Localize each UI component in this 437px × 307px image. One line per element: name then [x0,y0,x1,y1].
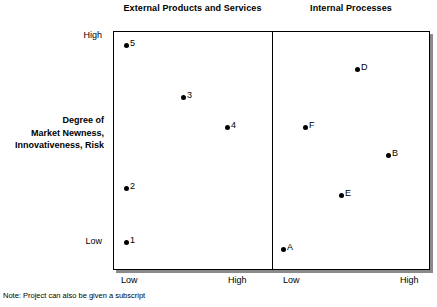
data-point-label: 1 [130,235,135,245]
data-point-marker [225,125,230,130]
data-point-label: D [361,62,368,72]
data-point-label: A [287,242,293,252]
y-axis-title-line-3: Innovativeness, Risk [0,139,104,152]
panel-header-external: External Products and Services [113,3,272,13]
data-point-marker [181,95,186,100]
y-axis-tick-high: High [62,30,102,40]
data-point-marker [386,153,391,158]
data-point-label: 5 [130,38,135,48]
data-point-label: F [309,120,315,130]
y-axis-title-line-2: Market Newness, [0,127,104,140]
data-point-marker [124,43,129,48]
x-axis-tick-internal-high: High [400,275,419,285]
data-point-marker [355,67,360,72]
scatter-chart: External Products and Services Internal … [0,0,437,307]
data-point-marker [303,125,308,130]
x-axis-tick-internal-low: Low [283,275,300,285]
data-point-marker [339,193,344,198]
panel-divider [272,32,273,269]
data-point-label: 4 [231,120,236,130]
data-point-marker [124,240,129,245]
data-point-label: E [345,188,351,198]
x-axis-tick-external-low: Low [121,275,138,285]
y-axis-tick-low: Low [62,236,102,246]
data-point-label: B [392,148,398,158]
y-axis-title: Degree of Market Newness, Innovativeness… [0,114,104,152]
y-axis-title-line-1: Degree of [0,114,104,127]
plot-frame-shadow-bottom [116,270,433,273]
data-point-marker [124,186,129,191]
data-point-marker [281,247,286,252]
data-point-label: 2 [130,181,135,191]
plot-frame-shadow-right [430,34,433,273]
data-point-label: 3 [187,90,192,100]
chart-footnote: Note: Project can also be given a subscr… [3,291,145,300]
panel-header-internal: Internal Processes [272,3,430,13]
x-axis-tick-external-high: High [228,275,247,285]
plot-area [113,31,430,270]
